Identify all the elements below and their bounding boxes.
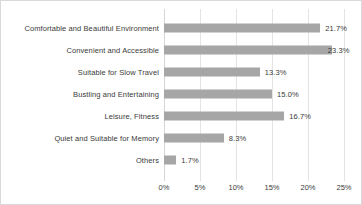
bar-value-label: 21.7% <box>325 24 347 33</box>
category-label: Suitable for Slow Travel <box>78 68 159 77</box>
x-tick-label: 5% <box>195 183 206 192</box>
bar <box>164 46 332 55</box>
bar <box>164 112 284 121</box>
x-tick-label: 20% <box>300 183 315 192</box>
bar <box>164 68 260 77</box>
category-label: Quiet and Suitable for Memory <box>54 134 159 143</box>
plot-area: Comfortable and Beautiful Environment21.… <box>164 9 344 181</box>
x-tick-label: 25% <box>336 183 351 192</box>
bar-row: Others1.7% <box>164 149 344 171</box>
horizontal-bar-chart: Comfortable and Beautiful Environment21.… <box>0 0 362 205</box>
category-label: Comfortable and Beautiful Environment <box>24 24 159 33</box>
bar <box>164 134 224 143</box>
category-label: Convenient and Accessible <box>66 46 159 55</box>
gridline-25pct <box>344 9 345 181</box>
bar-value-label: 15.0% <box>277 90 299 99</box>
x-tick-label: 15% <box>264 183 279 192</box>
bar-value-label: 23.3% <box>328 46 350 55</box>
category-label: Leisure, Fitness <box>104 112 159 121</box>
bar-value-label: 8.3% <box>229 134 247 143</box>
bar-row: Leisure, Fitness16.7% <box>164 105 344 127</box>
x-tick-label: 10% <box>228 183 243 192</box>
category-label: Bustling and Entertaining <box>73 90 159 99</box>
bar <box>164 156 176 165</box>
bar-value-label: 1.7% <box>181 156 199 165</box>
bar-row: Suitable for Slow Travel13.3% <box>164 61 344 83</box>
bar-row: Convenient and Accessible23.3% <box>164 39 344 61</box>
bar-row: Bustling and Entertaining15.0% <box>164 83 344 105</box>
bar <box>164 24 320 33</box>
bar-row: Comfortable and Beautiful Environment21.… <box>164 17 344 39</box>
x-tick-label: 0% <box>159 183 170 192</box>
bar <box>164 90 272 99</box>
x-axis-tick-labels: 0%5%10%15%20%25% <box>164 183 344 199</box>
bar-row: Quiet and Suitable for Memory8.3% <box>164 127 344 149</box>
category-label: Others <box>136 156 159 165</box>
bar-value-label: 16.7% <box>289 112 311 121</box>
bar-value-label: 13.3% <box>265 68 287 77</box>
